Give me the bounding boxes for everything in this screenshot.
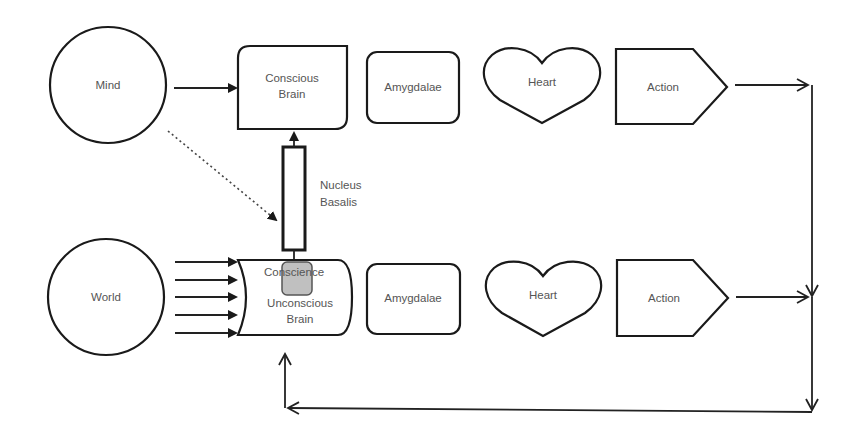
action-bottom-label: Action (648, 292, 680, 304)
heart-bottom-label: Heart (529, 289, 558, 301)
conscious-brain-node: Conscious Brain (238, 46, 347, 129)
heart-top-node: Heart (484, 48, 600, 123)
unconscious-brain-node: Conscience Unconscious Brain (238, 260, 352, 335)
world-input-arrows (175, 262, 236, 333)
heart-bottom-node: Heart (486, 262, 601, 336)
action-top-node: Action (616, 49, 727, 124)
unconscious-brain-label-line2: Brain (287, 313, 314, 325)
conscious-brain-label-line2: Brain (279, 88, 306, 100)
world-node: World (48, 239, 164, 355)
amygdalae-top-label: Amygdalae (384, 81, 442, 93)
heart-top-label: Heart (528, 76, 557, 88)
action-bottom-node: Action (617, 260, 728, 336)
nucleus-basalis-label-line1: Nucleus (320, 179, 362, 191)
amygdalae-bottom-label: Amygdalae (384, 292, 442, 304)
amygdalae-bottom-node: Amygdalae (367, 264, 460, 334)
mind-node: Mind (50, 27, 166, 143)
mind-label: Mind (96, 79, 121, 91)
mind-to-nucleus-dotted-arrow (168, 131, 276, 220)
conscious-brain-label-line1: Conscious (265, 72, 319, 84)
conscience-label: Conscience (264, 266, 324, 278)
nucleus-basalis-label-line2: Basalis (320, 196, 357, 208)
world-label: World (91, 291, 121, 303)
bottom-return-arrow (288, 408, 812, 412)
unconscious-brain-label-line1: Unconscious (267, 297, 333, 309)
flow-diagram: Mind Conscious Brain Amygdalae Heart Act… (0, 0, 858, 440)
amygdalae-top-node: Amygdalae (367, 52, 459, 123)
nucleus-basalis-bar (283, 147, 305, 250)
action-top-label: Action (647, 81, 679, 93)
